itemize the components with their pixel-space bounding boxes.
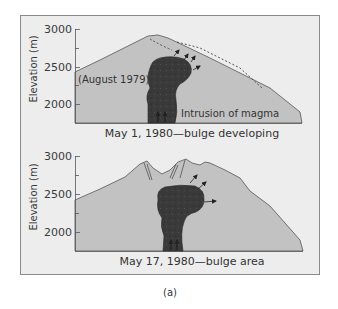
y-tick-3000: 3000	[44, 150, 72, 163]
y-tick-3000: 3000	[44, 23, 72, 36]
y-tick-2500: 2500	[44, 61, 72, 74]
figure-sub-label: (a)	[163, 287, 177, 298]
y-tick-2000: 2000	[44, 226, 72, 239]
panel-1-caption: May 1, 1980—bulge developing	[105, 127, 279, 140]
intrusion-of-magma-label: Intrusion of magma	[181, 108, 279, 119]
y-axis-title: Elevation (m)	[28, 163, 39, 230]
panel-2-caption: May 17, 1980—bulge area	[119, 255, 264, 268]
y-axis-title: Elevation (m)	[28, 35, 39, 102]
august-1979-label: (August 1979)	[78, 74, 150, 85]
y-tick-2000: 2000	[44, 98, 72, 111]
volcano-bulge-figure: 3000 2500 2000 Elevation (m) (August 197…	[0, 0, 338, 309]
y-tick-2500: 2500	[44, 188, 72, 201]
